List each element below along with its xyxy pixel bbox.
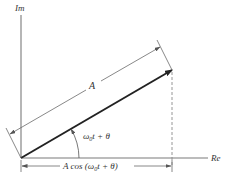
phasor-diagram: Im Re A ω0t + θ A cos (ω0t + θ) [0, 0, 229, 177]
magnitude-dimension-line-right [101, 47, 160, 81]
magnitude-label: A [88, 80, 96, 91]
real-axis-label: Re [210, 153, 221, 163]
phasor-arrow [21, 70, 172, 158]
angle-arc [71, 129, 79, 158]
projection-label: A cos (ω0t + θ) [62, 161, 118, 172]
imaginary-axis-label: Im [14, 3, 25, 13]
angle-label: ω0t + θ [83, 131, 110, 142]
magnitude-extension-end [157, 40, 172, 70]
magnitude-extension-start [6, 128, 21, 158]
